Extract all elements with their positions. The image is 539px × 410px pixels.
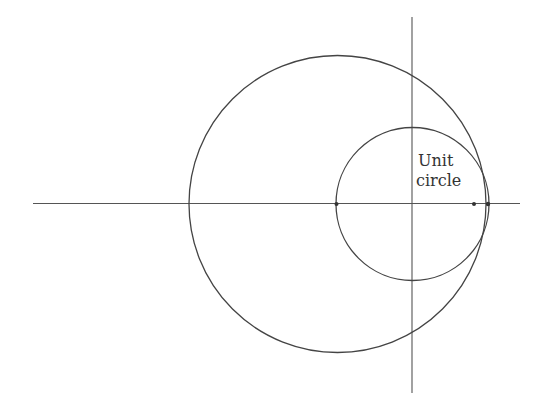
unit-circle-diagram: Unit circle	[0, 0, 539, 410]
point-left	[335, 202, 339, 206]
unit-circle-label-line2: circle	[416, 171, 461, 190]
unit-circle-label-line1: Unit	[418, 151, 454, 170]
point-right-inner	[472, 202, 476, 206]
point-right-outer	[486, 202, 490, 206]
